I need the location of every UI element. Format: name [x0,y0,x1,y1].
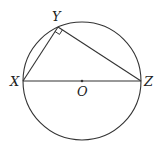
label-z: Z [143,74,154,89]
center-point-o [81,80,84,83]
label-y: Y [52,9,62,24]
label-o: O [77,84,88,99]
segment-xy [23,27,58,81]
geometry-diagram: Y X Z O [0,0,161,149]
label-x: X [9,74,20,89]
segment-yz [58,27,141,81]
